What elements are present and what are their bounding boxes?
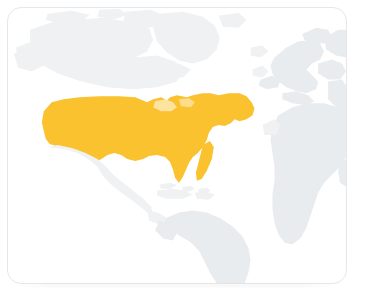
region-united-states[interactable] [42,93,255,182]
region-south-america[interactable] [155,211,250,283]
map-panel[interactable]: World map with United States highlighted [7,7,347,284]
region-iceland[interactable] [251,46,269,58]
world-map-svg[interactable]: World map with United States highlighted [8,8,346,283]
panel-drop-shadow [14,284,336,287]
world-map-widget: World map with United States highlighted [0,0,365,298]
region-africa[interactable] [262,103,346,244]
